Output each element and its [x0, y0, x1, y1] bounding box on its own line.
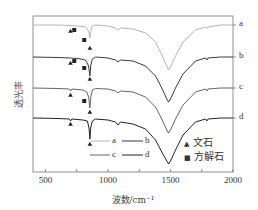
legend-label-c: c — [112, 149, 116, 159]
triangle-icon: ▲ — [184, 140, 189, 148]
x-tick-label: 1000 — [99, 175, 117, 185]
aragonite-triangle-icon — [88, 142, 93, 146]
aragonite-triangle-icon — [68, 122, 73, 126]
aragonite-triangle-icon — [68, 93, 73, 97]
calcite-square-icon — [82, 99, 86, 103]
square-icon: ■ — [184, 154, 191, 162]
aragonite-triangle-icon — [68, 61, 73, 65]
curve-b — [33, 57, 233, 102]
x-axis-label: 波数/cm⁻¹ — [112, 193, 155, 206]
aragonite-triangle-icon — [88, 46, 93, 50]
curve-label-c: c — [239, 81, 243, 91]
legend-symbol-calcite: ■ 方解石 — [184, 148, 224, 163]
x-axis-ticks — [46, 169, 234, 172]
aragonite-triangle-icon — [88, 110, 93, 114]
aragonite-triangle-icon — [88, 77, 93, 81]
curve-a — [33, 25, 233, 70]
x-tick-label: 1500 — [162, 175, 180, 185]
legend-symbol-aragonite: ▲ 文石 — [184, 134, 213, 149]
legend-label-a: a — [112, 135, 116, 145]
legend-label-d: d — [145, 149, 150, 159]
calcite-square-icon — [72, 59, 76, 63]
legend-label-b: b — [145, 135, 150, 145]
calcite-square-icon — [72, 28, 76, 32]
legend-lines — [90, 141, 143, 155]
legend-aragonite-label: 文石 — [193, 137, 213, 148]
curve-label-d: d — [239, 111, 244, 121]
x-tick-label: 2000 — [224, 175, 242, 185]
x-tick-label: 500 — [39, 175, 53, 185]
curve-label-a: a — [239, 18, 243, 28]
curve-label-b: b — [239, 50, 244, 60]
y-axis-label: 透光率 — [12, 81, 25, 108]
aragonite-triangle-icon — [68, 29, 73, 33]
curve-c — [33, 88, 233, 133]
calcite-square-icon — [82, 66, 86, 70]
legend-calcite-label: 方解石 — [194, 151, 224, 162]
calcite-square-icon — [82, 38, 86, 42]
